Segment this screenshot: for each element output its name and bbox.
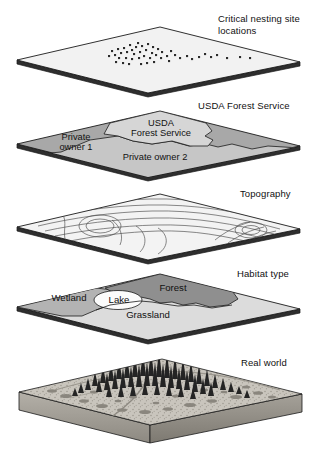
habitat-label-lake: Lake	[109, 294, 130, 305]
layer-label-habitat: Habitat type	[237, 268, 289, 280]
parcel-label-private2: Private owner 2	[123, 152, 188, 162]
habitat-label-forest: Forest	[159, 282, 187, 293]
layer-label-nesting: Critical nesting site locations	[218, 13, 300, 36]
layer-habitat-plane: Forest Wetland Lake Grassland	[17, 274, 300, 344]
layer-ownership-plane: USDA Forest Service Private owner 1 Priv…	[17, 111, 300, 181]
parcel-label-usda-line2: Forest Service	[131, 128, 191, 138]
habitat-label-grassland: Grassland	[126, 309, 170, 320]
layer-nesting-plane	[17, 27, 300, 97]
parcel-label-private1-line2: owner 1	[59, 142, 92, 152]
layer-label-topography: Topography	[240, 188, 291, 200]
layer-diagram-canvas: USDA Forest Service Private owner 1 Priv…	[0, 0, 317, 449]
parcel-label-private1-line1: Private	[62, 132, 91, 142]
parcel-label-usda-line1: USDA	[148, 118, 175, 128]
gis-layer-stack: USDA Forest Service Private owner 1 Priv…	[0, 0, 317, 449]
layer-label-realworld: Real world	[241, 357, 287, 369]
layer-label-ownership: USDA Forest Service	[198, 100, 290, 112]
habitat-label-wetland: Wetland	[51, 292, 86, 303]
layer-topography-plane	[17, 194, 300, 264]
